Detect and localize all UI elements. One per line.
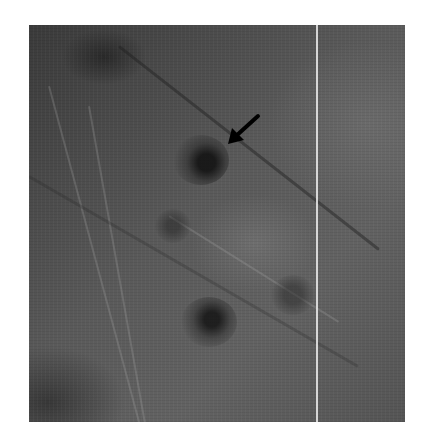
- vertical-line-artifact: [316, 25, 318, 422]
- indicated-lesion: [173, 135, 229, 185]
- skin-photograph: [29, 25, 405, 422]
- skin-crease: [48, 86, 143, 422]
- lower-lesion: [181, 297, 237, 347]
- arrow-icon: [226, 112, 262, 148]
- faint-lesion: [155, 209, 191, 243]
- right-lesion: [271, 275, 315, 315]
